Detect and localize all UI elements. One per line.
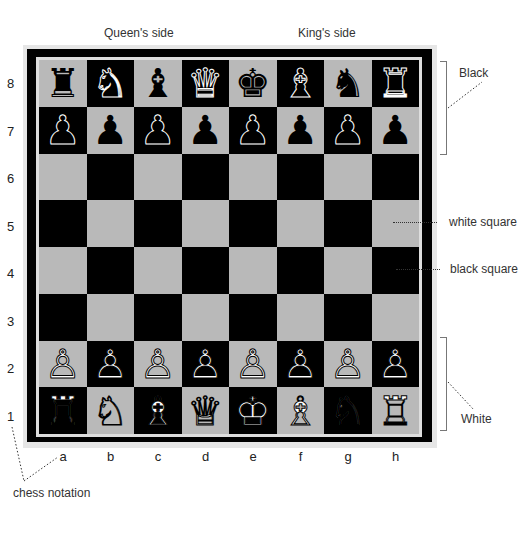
square-g5[interactable] bbox=[324, 200, 372, 247]
square-b7[interactable]: ♟ bbox=[87, 107, 135, 154]
square-e6[interactable] bbox=[229, 154, 277, 201]
square-a5[interactable] bbox=[39, 200, 87, 247]
piece-icon[interactable]: ♟ bbox=[282, 110, 318, 150]
square-d7[interactable]: ♟ bbox=[182, 107, 230, 154]
file-label: c bbox=[148, 449, 168, 464]
square-b2[interactable]: ♙ bbox=[87, 341, 135, 388]
piece-icon[interactable]: ♝ bbox=[140, 63, 176, 103]
square-a4[interactable] bbox=[39, 247, 87, 294]
piece-icon[interactable]: ♟ bbox=[92, 110, 128, 150]
square-g6[interactable] bbox=[324, 154, 372, 201]
square-g4[interactable] bbox=[324, 247, 372, 294]
piece-icon[interactable]: ♘ bbox=[330, 391, 366, 431]
square-b3[interactable] bbox=[87, 294, 135, 341]
square-g8[interactable]: ♞ bbox=[324, 60, 372, 107]
square-c6[interactable] bbox=[134, 154, 182, 201]
square-c5[interactable] bbox=[134, 200, 182, 247]
piece-icon[interactable]: ♚ bbox=[235, 63, 271, 103]
square-a2[interactable]: ♙ bbox=[39, 341, 87, 388]
square-e5[interactable] bbox=[229, 200, 277, 247]
square-f4[interactable] bbox=[277, 247, 325, 294]
file-label: g bbox=[338, 449, 358, 464]
piece-icon[interactable]: ♟ bbox=[140, 110, 176, 150]
piece-icon[interactable]: ♜ bbox=[377, 63, 413, 103]
square-f2[interactable]: ♙ bbox=[277, 341, 325, 388]
piece-icon[interactable]: ♙ bbox=[187, 344, 223, 384]
piece-icon[interactable]: ♞ bbox=[330, 63, 366, 103]
square-c1[interactable]: ♗ bbox=[134, 387, 182, 434]
square-d8[interactable]: ♛ bbox=[182, 60, 230, 107]
square-b8[interactable]: ♞ bbox=[87, 60, 135, 107]
piece-icon[interactable]: ♙ bbox=[140, 344, 176, 384]
square-f5[interactable] bbox=[277, 200, 325, 247]
piece-icon[interactable]: ♟ bbox=[330, 110, 366, 150]
square-d6[interactable] bbox=[182, 154, 230, 201]
piece-icon[interactable]: ♟ bbox=[377, 110, 413, 150]
square-b1[interactable]: ♘ bbox=[87, 387, 135, 434]
square-f8[interactable]: ♝ bbox=[277, 60, 325, 107]
square-e8[interactable]: ♚ bbox=[229, 60, 277, 107]
square-h7[interactable]: ♟ bbox=[372, 107, 420, 154]
black-label: Black bbox=[459, 66, 488, 80]
square-h1[interactable]: ♖ bbox=[372, 387, 420, 434]
square-d3[interactable] bbox=[182, 294, 230, 341]
square-h2[interactable]: ♙ bbox=[372, 341, 420, 388]
square-h8[interactable]: ♜ bbox=[372, 60, 420, 107]
square-d1[interactable]: ♕ bbox=[182, 387, 230, 434]
square-g1[interactable]: ♘ bbox=[324, 387, 372, 434]
square-a6[interactable] bbox=[39, 154, 87, 201]
piece-icon[interactable]: ♙ bbox=[282, 344, 318, 384]
square-d2[interactable]: ♙ bbox=[182, 341, 230, 388]
square-e4[interactable] bbox=[229, 247, 277, 294]
piece-icon[interactable]: ♗ bbox=[282, 391, 318, 431]
piece-icon[interactable]: ♙ bbox=[377, 344, 413, 384]
square-c3[interactable] bbox=[134, 294, 182, 341]
square-f7[interactable]: ♟ bbox=[277, 107, 325, 154]
square-g2[interactable]: ♙ bbox=[324, 341, 372, 388]
square-g3[interactable] bbox=[324, 294, 372, 341]
white-square-label: white square bbox=[449, 215, 517, 229]
square-a7[interactable]: ♟ bbox=[39, 107, 87, 154]
square-c4[interactable] bbox=[134, 247, 182, 294]
square-f3[interactable] bbox=[277, 294, 325, 341]
square-e3[interactable] bbox=[229, 294, 277, 341]
square-h3[interactable] bbox=[372, 294, 420, 341]
piece-icon[interactable]: ♟ bbox=[45, 110, 81, 150]
square-b4[interactable] bbox=[87, 247, 135, 294]
piece-icon[interactable]: ♗ bbox=[140, 391, 176, 431]
piece-icon[interactable]: ♞ bbox=[92, 63, 128, 103]
piece-icon[interactable]: ♖ bbox=[377, 391, 413, 431]
piece-icon[interactable]: ♟ bbox=[187, 110, 223, 150]
piece-icon[interactable]: ♙ bbox=[330, 344, 366, 384]
piece-icon[interactable]: ♙ bbox=[92, 344, 128, 384]
piece-icon[interactable]: ♛ bbox=[187, 63, 223, 103]
square-a8[interactable]: ♜ bbox=[39, 60, 87, 107]
file-label: b bbox=[101, 449, 121, 464]
piece-icon[interactable]: ♝ bbox=[282, 63, 318, 103]
black-pointer-line bbox=[446, 80, 486, 110]
square-b6[interactable] bbox=[87, 154, 135, 201]
piece-icon[interactable]: ♕ bbox=[187, 391, 223, 431]
piece-icon[interactable]: ♔ bbox=[235, 391, 271, 431]
square-e1[interactable]: ♔ bbox=[229, 387, 277, 434]
square-f1[interactable]: ♗ bbox=[277, 387, 325, 434]
square-d4[interactable] bbox=[182, 247, 230, 294]
square-c8[interactable]: ♝ bbox=[134, 60, 182, 107]
square-h4[interactable] bbox=[372, 247, 420, 294]
square-h5[interactable] bbox=[372, 200, 420, 247]
square-c7[interactable]: ♟ bbox=[134, 107, 182, 154]
square-c2[interactable]: ♙ bbox=[134, 341, 182, 388]
piece-icon[interactable]: ♙ bbox=[235, 344, 271, 384]
square-f6[interactable] bbox=[277, 154, 325, 201]
square-e7[interactable]: ♟ bbox=[229, 107, 277, 154]
square-e2[interactable]: ♙ bbox=[229, 341, 277, 388]
piece-icon[interactable]: ♟ bbox=[235, 110, 271, 150]
square-h6[interactable] bbox=[372, 154, 420, 201]
piece-icon[interactable]: ♜ bbox=[45, 63, 81, 103]
square-g7[interactable]: ♟ bbox=[324, 107, 372, 154]
square-a3[interactable] bbox=[39, 294, 87, 341]
piece-icon[interactable]: ♘ bbox=[92, 391, 128, 431]
piece-icon[interactable]: ♙ bbox=[45, 344, 81, 384]
square-d5[interactable] bbox=[182, 200, 230, 247]
square-b5[interactable] bbox=[87, 200, 135, 247]
